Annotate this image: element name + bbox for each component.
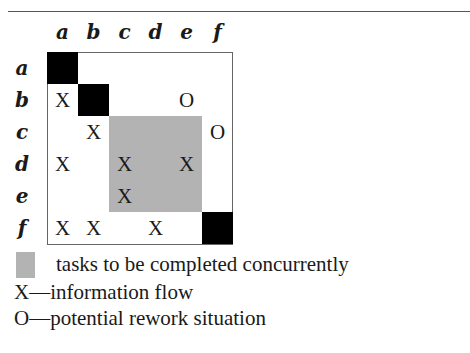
column-header-e: e [171, 20, 202, 44]
information-flow-mark-ec: X [109, 180, 140, 212]
column-header-b: b [78, 20, 109, 44]
diagonal-cell-f [202, 212, 233, 244]
rework-mark-cf: O [202, 116, 233, 148]
row-header-c: c [12, 116, 32, 148]
legend-concurrent: tasks to be completed concurrently [56, 252, 349, 276]
column-header-d: d [140, 20, 171, 44]
concurrent-swatch-icon [16, 252, 35, 278]
information-flow-mark-cb: X [78, 116, 109, 148]
diagonal-cell-b [78, 84, 109, 116]
information-flow-mark-de: X [171, 148, 202, 180]
information-flow-mark-fb: X [78, 212, 109, 244]
information-flow-mark-ba: X [47, 84, 78, 116]
legend-rework: O—potential rework situation [14, 306, 266, 330]
row-header-f: f [12, 212, 32, 244]
information-flow-mark-fa: X [47, 212, 78, 244]
row-header-b: b [12, 84, 32, 116]
information-flow-mark-fd: X [140, 212, 171, 244]
column-header-c: c [109, 20, 140, 44]
information-flow-mark-dc: X [109, 148, 140, 180]
diagonal-cell-a [47, 52, 78, 84]
legend-information-flow: X—information flow [14, 280, 193, 304]
column-header-f: f [202, 20, 233, 44]
rework-mark-be: O [171, 84, 202, 116]
information-flow-mark-da: X [47, 148, 78, 180]
column-header-a: a [47, 20, 78, 44]
top-rule [8, 11, 470, 12]
dsm-matrix: XOXOXXXXXXX [47, 52, 233, 245]
row-header-d: d [12, 148, 32, 180]
row-header-a: a [12, 52, 32, 84]
row-header-e: e [12, 180, 32, 212]
